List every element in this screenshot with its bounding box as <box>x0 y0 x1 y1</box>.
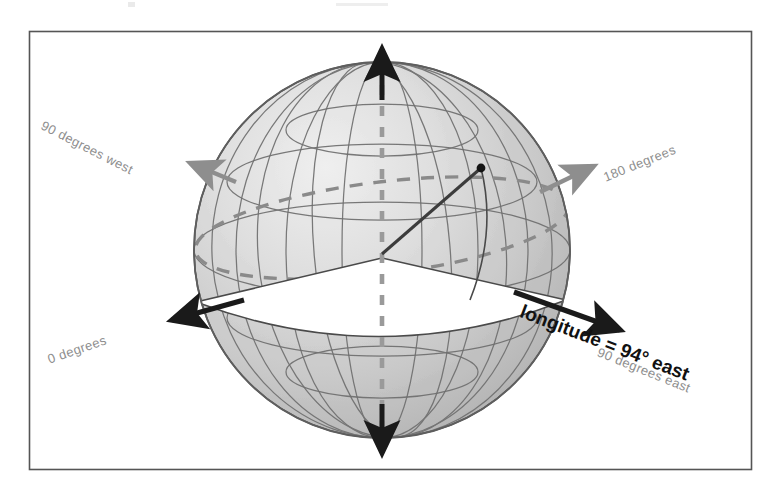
figure-canvas: 90 degrees west 180 degrees 0 degrees 90… <box>0 0 784 495</box>
globe-diagram <box>0 0 784 495</box>
surface-point-marker <box>477 164 486 173</box>
